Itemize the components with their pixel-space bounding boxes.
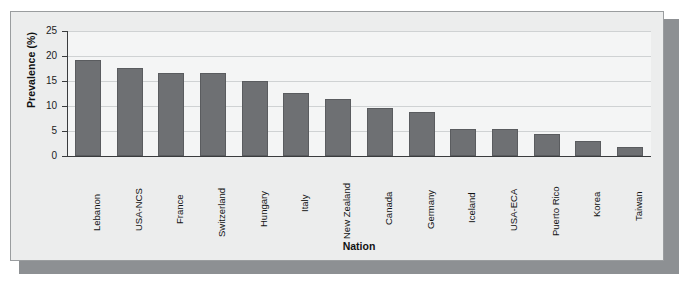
bar-lebanon[interactable] — [75, 60, 101, 156]
bar-taiwan[interactable] — [617, 147, 643, 156]
y-tick-label-25: 25 — [35, 26, 57, 36]
bar-korea[interactable] — [575, 141, 601, 156]
y-tick-label-10: 10 — [35, 101, 57, 111]
chart-figure: 25 20 15 10 5 0 Prevalence (%) Lebanon U… — [0, 0, 686, 283]
x-tick-label-italy: Italy — [300, 195, 310, 212]
bar-hungary[interactable] — [242, 81, 268, 157]
x-axis-line — [67, 156, 651, 157]
y-axis-line — [67, 31, 68, 157]
bar-germany[interactable] — [409, 112, 435, 156]
bar-usa-eca[interactable] — [492, 129, 518, 156]
x-tick-label-canada: Canada — [384, 192, 394, 225]
x-tick-label-puerto-rico: Puerto Rico — [551, 186, 561, 236]
y-tick-label-0: 0 — [35, 151, 57, 161]
y-tick-label-20: 20 — [35, 51, 57, 61]
x-tick-labels: Lebanon USA-NCS France Switzerland Hunga… — [67, 159, 651, 237]
figure-frame: 25 20 15 10 5 0 Prevalence (%) Lebanon U… — [10, 11, 664, 261]
y-tick-mark-0 — [62, 156, 67, 157]
x-tick-label-iceland: Iceland — [467, 192, 477, 223]
x-tick-label-usa-eca: USA-ECA — [509, 189, 519, 231]
y-tick-mark-15 — [62, 81, 67, 82]
bar-new-zealand[interactable] — [325, 99, 351, 157]
x-tick-label-switzerland: Switzerland — [217, 188, 227, 237]
y-tick-mark-25 — [62, 31, 67, 32]
x-tick-label-france: France — [175, 194, 185, 224]
y-tick-label-5: 5 — [35, 126, 57, 136]
x-tick-label-usa-ncs: USA-NCS — [134, 188, 144, 231]
bar-france[interactable] — [158, 73, 184, 156]
y-tick-mark-5 — [62, 131, 67, 132]
bar-canada[interactable] — [367, 108, 393, 156]
bar-switzerland[interactable] — [200, 73, 226, 156]
x-tick-label-hungary: Hungary — [259, 191, 269, 227]
bar-usa-ncs[interactable] — [117, 68, 143, 157]
x-tick-label-lebanon: Lebanon — [92, 194, 102, 231]
y-tick-label-15: 15 — [35, 76, 57, 86]
bar-italy[interactable] — [283, 93, 309, 156]
y-tick-mark-20 — [62, 56, 67, 57]
y-axis-title: Prevalence (%) — [25, 15, 37, 125]
x-tick-label-korea: Korea — [592, 192, 602, 217]
bars-layer — [67, 31, 651, 156]
y-tick-mark-10 — [62, 106, 67, 107]
x-axis-title: Nation — [67, 240, 651, 252]
x-tick-label-germany: Germany — [426, 190, 436, 229]
bar-puerto-rico[interactable] — [534, 134, 560, 157]
x-tick-label-taiwan: Taiwan — [634, 191, 644, 221]
x-tick-label-new-zealand: New Zealand — [342, 183, 352, 239]
bar-iceland[interactable] — [450, 129, 476, 156]
